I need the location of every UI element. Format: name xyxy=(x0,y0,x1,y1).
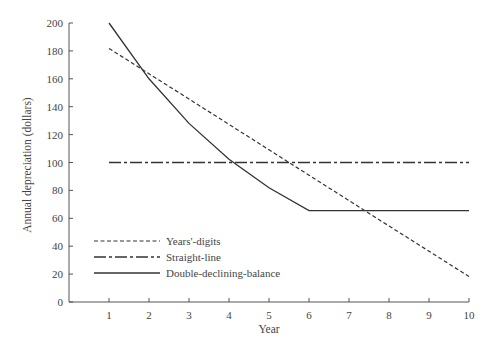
series-double-declining-balance xyxy=(109,23,469,211)
y-tick-label: 140 xyxy=(47,101,64,113)
y-tick-label: 0 xyxy=(58,296,64,308)
y-tick-label: 60 xyxy=(52,212,64,224)
y-tick-label: 80 xyxy=(52,184,64,196)
legend: Years'-digitsStraight-lineDouble-declini… xyxy=(94,235,280,279)
x-tick-label: 9 xyxy=(426,309,432,321)
depreciation-chart: 02040608010012014016018020012345678910 Y… xyxy=(0,0,490,349)
series-lines xyxy=(109,23,469,277)
y-tick-label: 100 xyxy=(47,157,64,169)
x-tick-label: 8 xyxy=(386,309,392,321)
x-tick-label: 1 xyxy=(106,309,112,321)
y-tick-label: 120 xyxy=(47,129,64,141)
x-tick-label: 6 xyxy=(306,309,312,321)
y-tick-label: 180 xyxy=(47,45,64,57)
y-axis-label: Annual depreciation (dollars) xyxy=(21,97,34,233)
y-tick-label: 160 xyxy=(47,73,64,85)
x-tick-label: 7 xyxy=(346,309,352,321)
x-axis-label: Year xyxy=(258,323,279,335)
x-tick-label: 10 xyxy=(464,309,476,321)
y-tick-label: 40 xyxy=(52,240,64,252)
legend-label: Double-declining-balance xyxy=(166,267,280,279)
legend-label: Years'-digits xyxy=(166,235,221,247)
x-tick-label: 4 xyxy=(226,309,232,321)
legend-label: Straight-line xyxy=(166,251,221,263)
y-tick-label: 200 xyxy=(47,17,64,29)
x-tick-label: 2 xyxy=(146,309,152,321)
x-tick-label: 5 xyxy=(266,309,272,321)
x-tick-label: 3 xyxy=(186,309,192,321)
y-tick-label: 20 xyxy=(52,268,64,280)
